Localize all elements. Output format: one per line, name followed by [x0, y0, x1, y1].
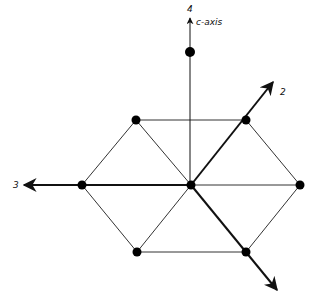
lattice-node-upper-left — [132, 116, 141, 125]
lattice-edge — [246, 185, 300, 252]
axis-3-label: 3 — [13, 180, 19, 190]
lattice-node-lower-left — [133, 248, 142, 257]
lattice-node-top — [185, 47, 195, 57]
lattice-node-right — [296, 181, 305, 190]
lattice-edge — [246, 120, 300, 185]
axis-1-arrow — [191, 185, 277, 290]
axis-2-arrow — [191, 82, 273, 185]
c-axis-label: c-axis — [196, 17, 223, 27]
axis-4-label: 4 — [187, 4, 193, 14]
lattice-nodes — [78, 47, 305, 257]
lattice-edge — [136, 120, 191, 185]
lattice-node-lower-right — [242, 248, 251, 257]
crystal-axes — [24, 18, 277, 290]
lattice-node-upper-right — [242, 116, 251, 125]
lattice-edge — [82, 185, 137, 252]
hexagonal-lattice-diagram: 4 c-axis 2 3 — [0, 0, 319, 303]
lattice-node-center — [187, 181, 196, 190]
lattice-edge — [82, 120, 136, 185]
axis-labels: 4 c-axis 2 3 — [13, 4, 286, 190]
lattice-edge — [137, 185, 191, 252]
lattice-node-left — [78, 181, 87, 190]
axis-2-label: 2 — [280, 87, 286, 97]
